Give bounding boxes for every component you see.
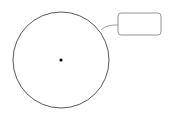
callout-label (118, 13, 161, 35)
callout-connector (101, 25, 118, 30)
center-point (59, 58, 62, 61)
